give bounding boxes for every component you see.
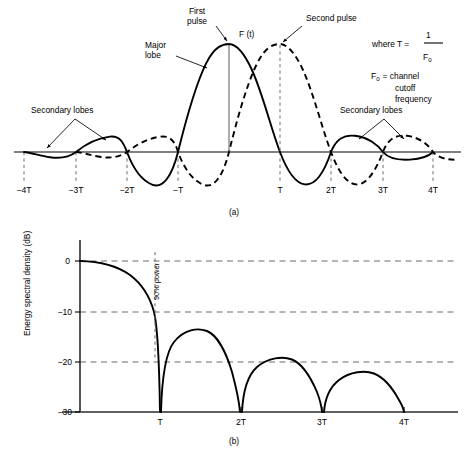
panel-a-xtick-5: 2T xyxy=(326,185,336,195)
first-pulse-label: First pulse xyxy=(187,6,207,26)
panel-b-sidelobe-1-curve xyxy=(161,329,240,412)
panel-b-sidelobe-2-curve xyxy=(242,358,322,412)
panel-b-ytick-0: 0 xyxy=(65,256,70,266)
panel-b-xtick-2: 3T xyxy=(317,417,327,427)
panel-a-curve-label: F (t) xyxy=(239,29,254,39)
fraction-denominator: F0 xyxy=(423,46,432,64)
panel-b-sidelobe-3-curve xyxy=(324,372,404,412)
panel-b-xtick-3: 4T xyxy=(399,417,409,427)
panel-a-xtick-0: −4T xyxy=(16,185,31,195)
panel-a-xtick-7: 4T xyxy=(428,185,438,195)
f0-definition-line3: frequency xyxy=(395,94,432,105)
panel-b-ytick-2: −20 xyxy=(57,357,72,367)
secondary-lobes-right-leader-1 xyxy=(359,119,384,139)
secondary-lobes-right-leader-2 xyxy=(384,119,404,139)
panel-a-xtick-3: −T xyxy=(173,185,183,195)
panel-b-gridlines xyxy=(80,261,458,362)
second-pulse-leader xyxy=(283,26,302,42)
first-pulse-leader xyxy=(216,26,227,41)
secondary-lobes-left-leader-2 xyxy=(75,119,106,140)
major-lobe-label: Major lobe xyxy=(145,40,166,60)
panel-b-main-lobe-curve xyxy=(80,261,160,412)
secondary-lobes-right-label: Secondary lobes xyxy=(340,105,402,115)
panel-b-caption: (b) xyxy=(229,437,239,446)
figure-container: First pulse F (t) Second pulse Major lob… xyxy=(0,0,469,454)
panel-b-xtick-0: T xyxy=(157,417,162,427)
panel-a-xtick-6: 3T xyxy=(378,185,388,195)
panel-a-f0-definition: F0= channel cutoff frequency xyxy=(371,65,432,105)
secondary-lobes-left-label: Secondary lobes xyxy=(31,105,93,115)
panel-a-xtick-2: −2T xyxy=(119,185,134,195)
panel-b-ytick-1: −10 xyxy=(57,307,72,317)
panel-b-y-axis-label: Energy spectral density (dB) xyxy=(22,231,32,336)
where-t-label: where T = xyxy=(372,39,409,49)
panel-b-ytick-3: −30 xyxy=(57,407,72,417)
panel-a-caption: (a) xyxy=(229,208,239,217)
f0-definition-line2: cutoff xyxy=(395,83,432,94)
f0-definition-line1: F0= channel xyxy=(371,65,432,83)
fraction-numerator: 1 xyxy=(426,30,431,40)
secondary-lobes-left-leader-1 xyxy=(47,119,75,148)
major-lobe-leader xyxy=(176,56,207,68)
panel-a-xtick-4: T xyxy=(277,185,282,195)
panel-a-xtick-1: −3T xyxy=(68,185,83,195)
panel-b-xtick-1: 2T xyxy=(236,417,246,427)
second-pulse-label: Second pulse xyxy=(306,13,357,23)
panel-b-90-percent-power-label: 90% power xyxy=(152,263,161,300)
